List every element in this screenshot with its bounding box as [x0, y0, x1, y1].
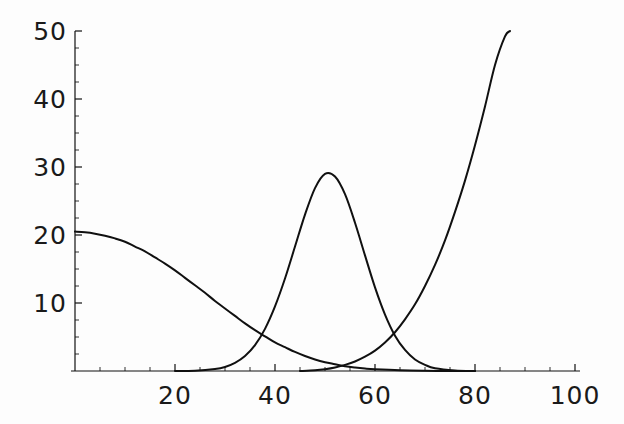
x-tick-label: 20 [158, 381, 192, 410]
series-gaussian-peak-curve [175, 173, 475, 371]
x-tick-label: 80 [458, 381, 492, 410]
axes-layer [71, 31, 580, 371]
labels-layer: 204060801001020304050 [33, 17, 600, 410]
x-tick-label: 60 [358, 381, 392, 410]
ticks-layer [75, 31, 575, 371]
series-decaying-curve [75, 232, 475, 371]
series-rising-curve [300, 31, 510, 371]
plot-canvas: 204060801001020304050 [0, 0, 624, 424]
y-tick-label: 20 [33, 221, 67, 250]
chart-figure: 204060801001020304050 [0, 0, 624, 424]
y-tick-label: 40 [33, 85, 67, 114]
curves-layer [75, 31, 510, 371]
y-tick-label: 10 [33, 289, 67, 318]
y-tick-label: 50 [33, 17, 67, 46]
x-tick-label: 100 [550, 381, 601, 410]
y-tick-label: 30 [33, 153, 67, 182]
x-tick-label: 40 [258, 381, 292, 410]
